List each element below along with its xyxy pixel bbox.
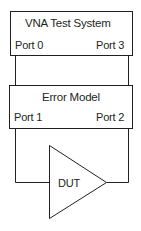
vna-port-0-label: Port 0 [15,39,43,51]
error-model-port-1-label: Port 1 [14,111,42,123]
vna-title: VNA Test System [25,17,111,29]
connector-port2-dut-output [107,129,129,183]
dut-label: DUT [58,177,80,189]
error-model-title: Error Model [42,91,100,103]
error-model-port-2-label: Port 2 [96,111,124,123]
vna-port-3-label: Port 3 [96,39,124,51]
connector-port1-dut-input [16,129,50,183]
